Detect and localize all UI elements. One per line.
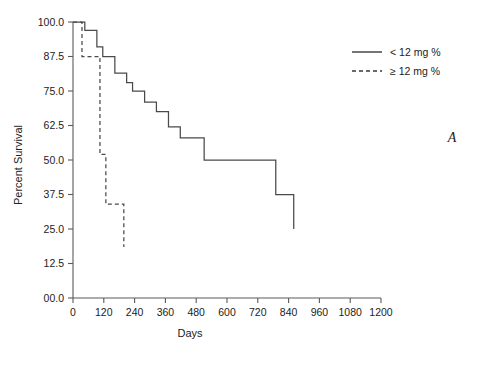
chart-canvas: 00.012.525.037.550.062.575.087.5100.0 Pe… [0, 0, 477, 366]
chart-legend: < 12 mg % ≥ 12 mg % [352, 46, 441, 77]
series-curve-high [73, 22, 124, 247]
y-tick-label-2: 25.0 [44, 223, 65, 235]
y-tick-label-8: 100.0 [38, 16, 64, 28]
x-tick-label-10: 1200 [369, 306, 393, 318]
data-series-group [73, 22, 294, 247]
legend-label-dashed: ≥ 12 mg % [390, 65, 440, 77]
x-tick-label-3: 360 [157, 306, 175, 318]
x-tick-label-7: 840 [280, 306, 298, 318]
y-tick-marks [68, 22, 73, 298]
legend-label-solid: < 12 mg % [390, 46, 441, 58]
y-tick-label-5: 62.5 [44, 119, 65, 131]
x-tick-label-2: 240 [126, 306, 144, 318]
x-tick-label-6: 720 [249, 306, 267, 318]
x-tick-label-1: 120 [95, 306, 113, 318]
panel-label: A [447, 130, 457, 145]
y-tick-labels: 00.012.525.037.550.062.575.087.5100.0 [38, 16, 64, 304]
y-tick-label-4: 50.0 [44, 154, 65, 166]
y-tick-label-1: 12.5 [44, 257, 65, 269]
x-tick-marks [73, 298, 381, 303]
y-axis-group: 00.012.525.037.550.062.575.087.5100.0 Pe… [12, 16, 73, 304]
x-axis-title: Days [177, 327, 203, 339]
y-tick-label-6: 75.0 [44, 85, 65, 97]
survival-chart-figure: 00.012.525.037.550.062.575.087.5100.0 Pe… [0, 0, 477, 366]
x-tick-label-8: 960 [311, 306, 329, 318]
y-tick-label-3: 37.5 [44, 188, 65, 200]
series-curve-low [73, 22, 294, 229]
x-tick-labels: 012024036048060072084096010801200 [70, 306, 393, 318]
x-tick-label-0: 0 [70, 306, 76, 318]
x-tick-label-9: 1080 [339, 306, 363, 318]
x-axis-group: 012024036048060072084096010801200 Days [70, 298, 393, 339]
y-axis-title: Percent Survival [12, 125, 24, 205]
y-tick-label-7: 87.5 [44, 50, 65, 62]
x-tick-label-4: 480 [187, 306, 205, 318]
y-tick-label-0: 00.0 [44, 292, 65, 304]
x-tick-label-5: 600 [218, 306, 236, 318]
